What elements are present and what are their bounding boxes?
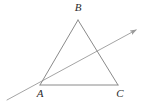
segment-ab xyxy=(40,20,78,85)
vertex-label-c: C xyxy=(116,87,124,99)
geometry-canvas: B A C xyxy=(0,0,144,105)
geometry-figure: B A C xyxy=(0,0,144,105)
vertex-label-b: B xyxy=(75,1,82,13)
vertex-label-a: A xyxy=(36,87,44,99)
segment-bc xyxy=(78,20,118,85)
